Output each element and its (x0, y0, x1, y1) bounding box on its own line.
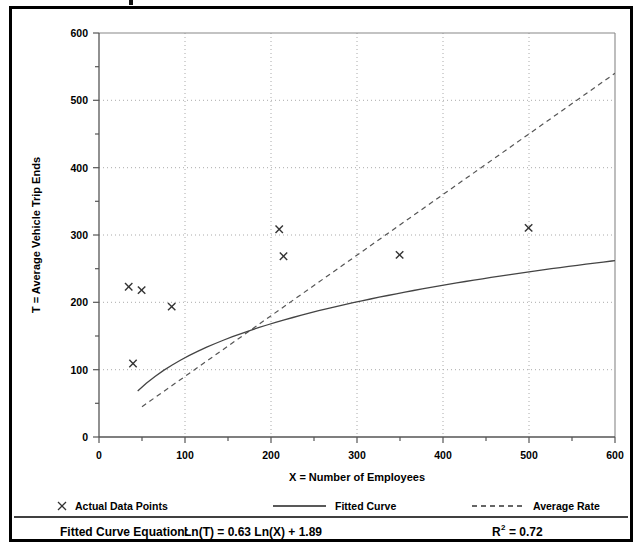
legend-label-actual-data-points: Actual Data Points (75, 500, 168, 512)
data-point-marker (280, 253, 287, 260)
y-axis-title: T = Average Vehicle Trip Ends (30, 157, 42, 313)
data-point-marker (168, 303, 175, 310)
r-squared-exponent: 2 (501, 523, 506, 532)
equation-expression: Ln(T) = 0.63 Ln(X) + 1.89 (184, 525, 322, 539)
r-squared-base: R (492, 525, 501, 539)
x-tick-label: 400 (434, 449, 452, 461)
chart-plot-area: 600 500 400 300 200 100 0 0 100 200 300 … (12, 9, 630, 539)
figure-panel: 600 500 400 300 200 100 0 0 100 200 300 … (9, 6, 633, 542)
series-actual-data-points (52, 224, 533, 410)
data-point-marker (91, 309, 98, 316)
data-point-marker (276, 226, 283, 233)
equation-label: Fitted Curve Equation: (60, 525, 189, 539)
top-edge-artifact (129, 0, 133, 5)
y-tick-label: 600 (70, 27, 88, 39)
x-tick-label: 500 (520, 449, 538, 461)
y-tick-label: 500 (70, 94, 88, 106)
x-tick-label: 200 (262, 449, 280, 461)
series-average-rate-line (142, 73, 615, 406)
data-point-marker (396, 251, 403, 258)
data-point-marker (52, 367, 59, 374)
data-point-marker (129, 360, 136, 367)
footer-r2-group: R 2 = 0.72 (492, 523, 543, 539)
x-axis-title: X = Number of Employees (289, 471, 425, 483)
legend-item-average-rate: Average Rate (472, 500, 600, 512)
x-tick-label: 600 (606, 449, 624, 461)
x-axis-ticks (99, 437, 615, 443)
y-tick-label: 400 (70, 162, 88, 174)
y-tick-label: 100 (70, 364, 88, 376)
y-tick-label: 0 (82, 431, 88, 443)
chart-svg: 600 500 400 300 200 100 0 0 100 200 300 … (12, 9, 630, 539)
y-tick-label: 200 (70, 296, 88, 308)
y-axis-ticks (93, 33, 99, 437)
data-point-marker (138, 286, 145, 293)
x-tick-label: 300 (348, 449, 366, 461)
r-squared-value: = 0.72 (509, 525, 543, 539)
x-tick-label: 100 (176, 449, 194, 461)
legend-label-average-rate: Average Rate (533, 500, 600, 512)
footer-equation-group: Fitted Curve Equation: Ln(T) = 0.63 Ln(X… (60, 525, 322, 539)
legend-item-fitted-curve: Fitted Curve (273, 500, 396, 512)
grid-vertical (185, 33, 529, 437)
data-point-marker (60, 402, 67, 409)
legend-label-fitted-curve: Fitted Curve (335, 500, 396, 512)
chart-legend: Actual Data Points Fitted Curve Average … (58, 500, 600, 512)
series-fitted-curve-line (138, 261, 615, 392)
data-point-marker (125, 283, 132, 290)
data-point-marker (88, 355, 95, 362)
legend-item-actual-data-points: Actual Data Points (58, 500, 168, 512)
x-tick-label: 0 (96, 449, 102, 461)
x-marker-icon (58, 502, 66, 510)
x-tick-labels: 0 100 200 300 400 500 600 (96, 449, 624, 461)
y-tick-labels: 600 500 400 300 200 100 0 (70, 27, 88, 443)
y-tick-label: 300 (70, 229, 88, 241)
